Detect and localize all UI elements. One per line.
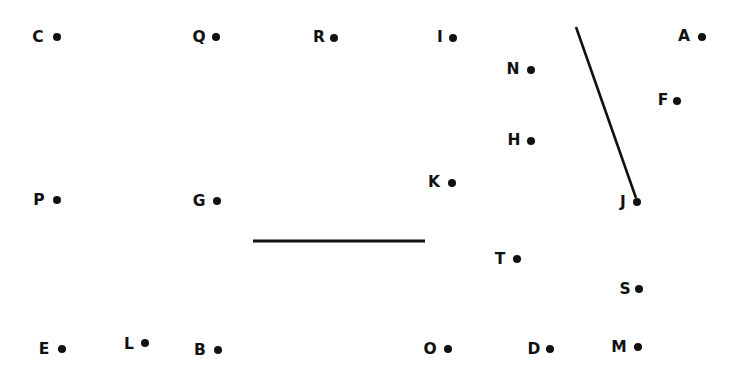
point-dot-q[interactable] <box>212 33 220 41</box>
point-dot-a[interactable] <box>698 33 706 41</box>
point-label-p: P <box>33 193 44 209</box>
point-dot-p[interactable] <box>53 196 61 204</box>
point-label-j: J <box>620 195 626 211</box>
point-dot-n[interactable] <box>527 66 535 74</box>
point-label-t: T <box>495 252 506 268</box>
point-label-m: M <box>611 340 626 356</box>
point-label-q: Q <box>192 30 205 46</box>
point-label-d: D <box>528 342 541 358</box>
point-label-a: A <box>678 29 690 45</box>
point-dot-h[interactable] <box>527 137 535 145</box>
point-label-i: I <box>437 30 443 46</box>
point-label-b: B <box>194 343 206 359</box>
point-dot-t[interactable] <box>513 255 521 263</box>
point-label-e: E <box>39 342 50 358</box>
point-label-s: S <box>619 282 630 298</box>
point-label-k: K <box>428 175 440 191</box>
segment-layer <box>0 0 742 373</box>
diagonal-segment-near-J <box>576 27 636 198</box>
point-dot-s[interactable] <box>635 285 643 293</box>
point-dot-g[interactable] <box>213 197 221 205</box>
point-dot-f[interactable] <box>673 97 681 105</box>
point-label-l: L <box>124 337 134 353</box>
point-dot-l[interactable] <box>141 339 149 347</box>
point-label-f: F <box>658 93 669 109</box>
point-dot-e[interactable] <box>58 345 66 353</box>
point-dot-c[interactable] <box>53 33 61 41</box>
diagram-canvas: CQRIANFHKPGJTSELBODM <box>0 0 742 373</box>
point-dot-r[interactable] <box>330 34 338 42</box>
point-dot-d[interactable] <box>546 345 554 353</box>
point-label-n: N <box>507 62 520 78</box>
point-dot-i[interactable] <box>449 34 457 42</box>
point-dot-m[interactable] <box>634 343 642 351</box>
point-label-o: O <box>423 342 436 358</box>
point-dot-o[interactable] <box>444 345 452 353</box>
point-dot-j[interactable] <box>633 198 641 206</box>
point-label-g: G <box>193 194 206 210</box>
point-label-c: C <box>32 30 43 46</box>
point-label-r: R <box>313 30 325 46</box>
point-label-h: H <box>508 133 521 149</box>
point-dot-k[interactable] <box>448 179 456 187</box>
point-dot-b[interactable] <box>214 346 222 354</box>
